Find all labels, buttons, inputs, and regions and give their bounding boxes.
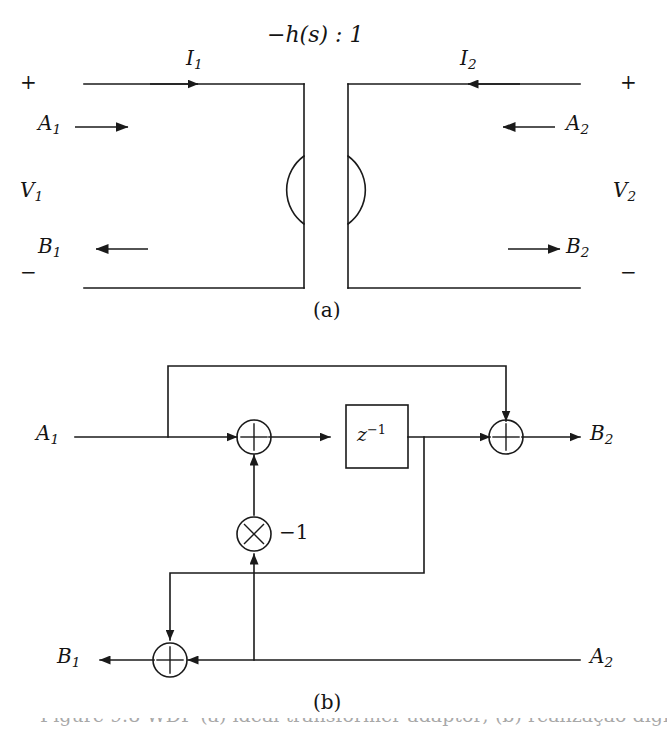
input-label-a2: A2 (590, 646, 613, 669)
port2-plus-sign: + (620, 72, 637, 92)
panel-a-arrows (75, 84, 560, 249)
port1-plus-sign: + (20, 72, 37, 92)
cropped-page-caption: Figure 9.8 WDF (a) ideal transformer ada… (0, 718, 667, 732)
panel-a-caption: (a) (313, 300, 341, 320)
multiplier-coefficient-label: −1 (279, 522, 308, 542)
port2-incident-wave-label: A2 (566, 113, 589, 136)
port2-voltage-label: V2 (613, 180, 636, 203)
port1-current-label: I1 (186, 48, 203, 71)
figure-canvas (0, 0, 667, 732)
delay-block-label: z−1 (357, 424, 386, 444)
wire-feedforward-top (168, 366, 506, 437)
input-label-a1: A1 (36, 423, 59, 446)
port1-incident-wave-label: A1 (38, 113, 61, 136)
panel-b-schematic (75, 366, 580, 677)
winding-semicircle-right (348, 156, 365, 224)
port2-reflected-wave-label: B2 (566, 236, 589, 259)
winding-semicircle-left (287, 156, 304, 224)
port2-minus-sign: − (620, 262, 637, 282)
port1-reflected-wave-label: B1 (38, 236, 61, 259)
output-label-b1: B1 (57, 646, 80, 669)
transformer-ratio-label: −h(s) : 1 (267, 24, 363, 46)
output-label-b2: B2 (590, 423, 613, 446)
port1-voltage-label: V1 (20, 180, 43, 203)
panel-a-schematic (84, 84, 580, 288)
panel-b-caption: (b) (313, 692, 341, 712)
port1-minus-sign: − (20, 262, 37, 282)
port2-current-label: I2 (460, 48, 477, 71)
figure-root: −h(s) : 1 + − + − V1 V2 I1 I2 A1 A2 B1 B… (0, 0, 667, 732)
